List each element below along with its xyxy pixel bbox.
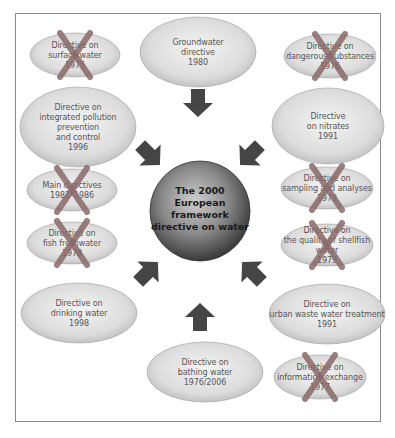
directive-node-sampling-analyses: Directive onsampling and analyses1979: [281, 166, 373, 210]
directive-label-line: Directive on: [303, 226, 350, 235]
directive-label-line: Groundwater: [172, 38, 224, 47]
arrow-from-top-right-icon: [229, 134, 270, 175]
arrow-from-bottom-right-icon: [231, 251, 272, 292]
directive-label-line: 1996: [68, 143, 88, 152]
arrow-from-top-icon: [183, 89, 213, 117]
arrow-from-bottom-left-icon: [127, 251, 168, 292]
directive-label-line: Directive on: [55, 299, 102, 308]
directive-label-line: Directive: [311, 112, 346, 121]
directive-label-line: Directive on: [296, 363, 343, 372]
directive-label-line: Directive on: [303, 300, 350, 309]
directive-node-urban-waste-water: Directive onurban waste water treatment1…: [269, 284, 385, 344]
directive-label-line: drinking water: [51, 309, 108, 318]
directive-node-bathing-water: Directive onbathing water1976/2006: [147, 342, 263, 402]
directive-node-groundwater: Groundwaterdirective1980: [140, 17, 256, 87]
directive-label-line: 1980: [188, 58, 208, 67]
directive-label-line: prevention: [57, 123, 99, 132]
directive-label-line: and control: [56, 133, 100, 142]
directive-label-line: directive: [181, 48, 215, 57]
directive-node-dangerous-substances: Directive ondangerous substances1976: [284, 34, 376, 78]
directive-node-surface-water: Directive onsurface water1975: [30, 33, 120, 77]
directive-node-drinking-water: Directive ondrinking water1998: [21, 283, 137, 343]
directive-node-ippc: Directive onintegrated pollutionpreventi…: [20, 87, 136, 167]
center-line: framework: [171, 209, 230, 220]
directive-label-line: Directive on: [306, 42, 353, 51]
directive-node-fish-freshwater: Directive onfish freshwater1978: [27, 221, 117, 265]
directive-label-line: Directive on: [48, 229, 95, 238]
directive-node-shellfish-water: Directive onthe quality of shellfishwate…: [281, 223, 373, 267]
directive-label-line: 1998: [69, 319, 89, 328]
directive-label-line: Directive on: [54, 103, 101, 112]
directive-node-main-directives: Main directives1981–1986: [27, 168, 117, 212]
directive-label-line: Directive on: [51, 41, 98, 50]
directive-label-line: bathing water: [178, 368, 233, 377]
water-directives-diagram: Directive onsurface water1975Groundwater…: [0, 0, 395, 438]
directive-label-line: 1976/2006: [184, 378, 227, 387]
directive-label-line: 1991: [318, 132, 338, 141]
center-node: The 2000 European framework directive on…: [150, 161, 250, 261]
directive-label-line: Directive on: [303, 174, 350, 183]
directive-label-line: urban waste water treatment: [270, 310, 385, 319]
center-line: directive on water: [151, 221, 249, 232]
directive-label-line: on nitrates: [307, 122, 349, 131]
arrow-from-top-left-icon: [129, 134, 170, 175]
center-line: European: [175, 197, 226, 208]
center-line: The 2000: [175, 185, 225, 196]
directive-label-line: Directive on: [181, 358, 228, 367]
directive-label-line: integrated pollution: [39, 113, 116, 122]
directive-node-information-exchange: Directive oninformation exchange1977: [274, 355, 366, 399]
directive-label-line: 1991: [317, 320, 337, 329]
directive-node-nitrates: Directiveon nitrates1991: [272, 88, 384, 164]
arrow-from-bottom-icon: [185, 303, 215, 331]
